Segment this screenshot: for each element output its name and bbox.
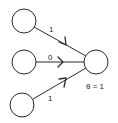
weight-label-1: 1 — [49, 25, 54, 34]
weight-label-2: 0 — [48, 53, 53, 62]
input-node-2 — [12, 50, 36, 74]
output-node — [84, 50, 108, 74]
threshold-label: θ = 1 — [86, 82, 105, 91]
diagram-svg: 1 0 1 θ = 1 — [0, 0, 118, 123]
arrowhead-input-3-icon — [59, 78, 66, 87]
edge-input-3 — [33, 68, 86, 99]
input-node-3 — [10, 93, 34, 117]
perceptron-diagram: 1 0 1 θ = 1 — [0, 0, 118, 123]
weight-label-3: 1 — [48, 94, 53, 103]
edge-input-1 — [34, 27, 86, 56]
input-node-1 — [12, 9, 36, 33]
